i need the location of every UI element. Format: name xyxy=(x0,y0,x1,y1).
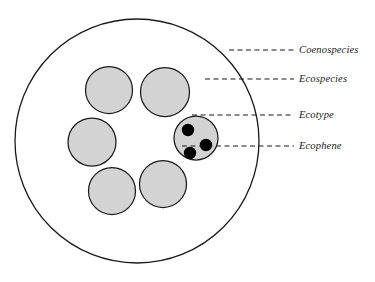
label-ecophene: Ecophene xyxy=(298,140,342,151)
diagram-canvas: Coenospecies Ecospecies Ecotype Ecophene xyxy=(0,0,375,282)
ecophene-dot xyxy=(200,139,212,151)
coenospecies-circle xyxy=(15,19,259,263)
label-coenospecies: Coenospecies xyxy=(299,44,359,55)
ecospecies-circle xyxy=(141,68,190,117)
ecospecies-circle xyxy=(68,118,116,166)
label-ecotype: Ecotype xyxy=(298,109,334,120)
ecospecies-circle xyxy=(86,67,133,114)
ecospecies-circle xyxy=(140,161,187,208)
ecospecies-circle xyxy=(89,168,136,215)
taxonomy-diagram: Coenospecies Ecospecies Ecotype Ecophene xyxy=(0,0,375,282)
ecophene-dot xyxy=(184,147,196,159)
ecophene-dot xyxy=(182,124,194,136)
label-ecospecies: Ecospecies xyxy=(298,73,347,84)
